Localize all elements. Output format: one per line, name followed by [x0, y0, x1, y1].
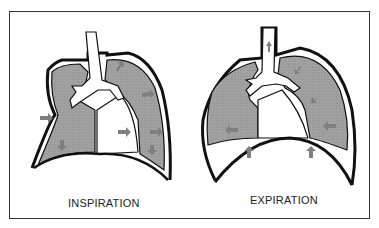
expiration-lungs [203, 28, 356, 185]
inspiration-label: INSPIRATION [68, 197, 140, 209]
expiration-label: EXPIRATION [250, 194, 318, 206]
inspiration-lungs [32, 32, 170, 180]
lungs-diagram [0, 0, 379, 228]
